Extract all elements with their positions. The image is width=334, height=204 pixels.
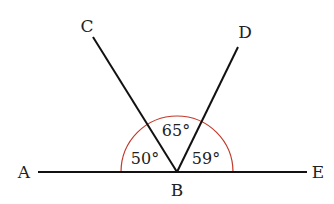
angle-label-CBD: 65°: [162, 121, 190, 140]
point-label-C: C: [80, 16, 93, 36]
diagram-canvas: A B C D E 50° 65° 59°: [0, 0, 334, 204]
geometry-diagram: A B C D E 50° 65° 59°: [0, 0, 334, 204]
point-label-A: A: [17, 162, 31, 182]
angle-label-ABC: 50°: [131, 149, 159, 168]
point-label-E: E: [312, 162, 324, 182]
point-label-B: B: [171, 180, 184, 200]
point-label-D: D: [238, 22, 252, 42]
angle-label-DBE: 59°: [192, 149, 220, 168]
